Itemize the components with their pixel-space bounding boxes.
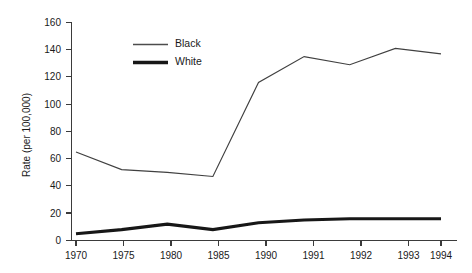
y-tick-label: 100 <box>44 99 61 110</box>
line-chart: 160 140 120 100 80 60 40 20 0 Rate (per … <box>0 0 472 273</box>
x-tick-label: 1990 <box>255 250 278 261</box>
x-tick-label: 1991 <box>302 250 325 261</box>
x-tick-label: 1975 <box>112 250 135 261</box>
y-tick-label: 80 <box>50 126 62 137</box>
y-axis-title: Rate (per 100,000) <box>21 93 32 177</box>
chart-figure: 160 140 120 100 80 60 40 20 0 Rate (per … <box>0 0 472 273</box>
x-tick-label: 1985 <box>207 250 230 261</box>
y-tick-label: 40 <box>50 180 62 191</box>
y-tick-label: 140 <box>44 44 61 55</box>
chart-background <box>0 0 472 273</box>
y-tick-label: 60 <box>50 153 62 164</box>
legend-label-black: Black <box>175 37 201 49</box>
y-tick-label: 120 <box>44 71 61 82</box>
x-tick-label: 1980 <box>160 250 183 261</box>
x-tick-label: 1993 <box>397 250 420 261</box>
legend-label-white: White <box>175 55 202 67</box>
x-tick-label: 1970 <box>65 250 88 261</box>
y-tick-label: 0 <box>55 235 61 246</box>
y-tick-label: 20 <box>50 208 62 219</box>
x-tick-label: 1994 <box>430 250 453 261</box>
x-tick-label: 1992 <box>350 250 373 261</box>
y-tick-label: 160 <box>44 17 61 28</box>
